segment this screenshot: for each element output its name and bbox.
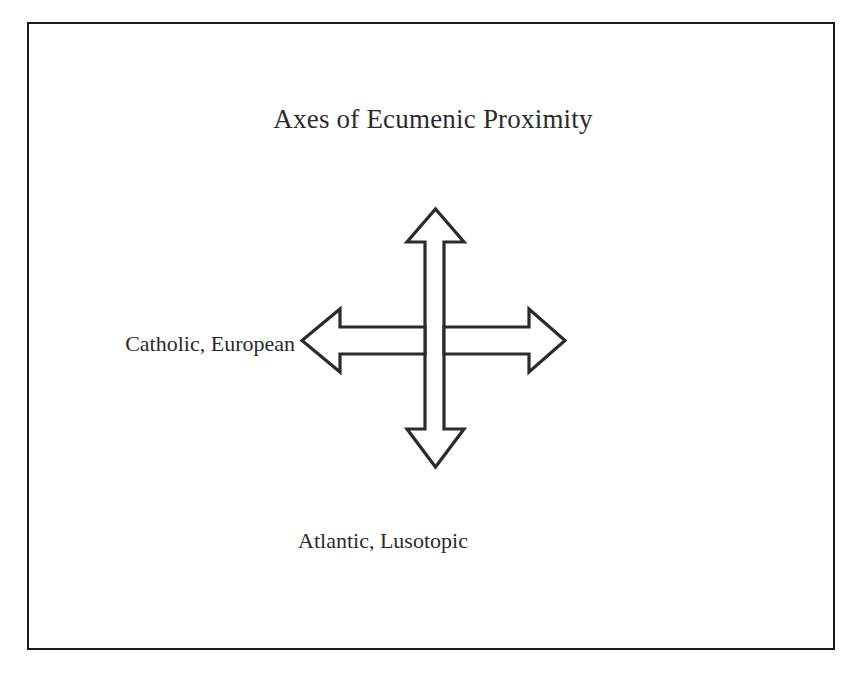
horizontal-axis-label: Catholic, European bbox=[43, 330, 295, 358]
cross-arrows-graphic bbox=[297, 204, 597, 500]
figure-root: Axes of Ecumenic Proximity Catholic, Eur… bbox=[0, 0, 861, 676]
vertical-axis-label: Atlantic, Lusotopic bbox=[177, 527, 589, 555]
right-arrow-icon bbox=[444, 309, 565, 372]
figure-title: Axes of Ecumenic Proximity bbox=[29, 102, 837, 136]
cross-arrows-svg bbox=[297, 204, 597, 500]
left-arrow-icon bbox=[302, 309, 425, 372]
figure-frame: Axes of Ecumenic Proximity Catholic, Eur… bbox=[27, 22, 835, 650]
